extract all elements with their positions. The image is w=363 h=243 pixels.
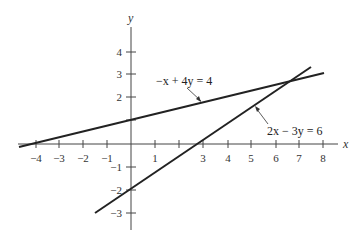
x-tick-label: 6	[273, 152, 279, 164]
y-tick-label: −1	[110, 161, 122, 173]
equation-label-1: −x + 4y = 4	[156, 74, 212, 88]
x-tick-label: −3	[53, 152, 65, 164]
x-tick-label: 8	[320, 152, 326, 164]
equation-label-2: 2x − 3y = 6	[267, 124, 323, 138]
y-tick-label: −3	[110, 207, 122, 219]
x-tick-label: −2	[77, 152, 89, 164]
x-tick-label: −4	[30, 152, 42, 164]
y-tick-label: 3	[117, 68, 123, 80]
x-axis-label: x	[342, 137, 349, 151]
x-tick-label: 5	[248, 152, 254, 164]
y-axis-label: y	[127, 11, 134, 25]
x-tick-label: 7	[296, 152, 302, 164]
x-tick-label: 1	[152, 152, 158, 164]
x-tick-label: 4	[225, 152, 231, 164]
y-tick-label: −2	[110, 184, 122, 196]
y-tick-label: 2	[117, 91, 123, 103]
line-2	[95, 67, 311, 213]
arrow-head-icon	[255, 106, 260, 112]
y-tick-label: 4	[117, 46, 123, 58]
x-tick-label: 3	[200, 152, 206, 164]
graph: −4 −3 −2 −1 1 3 4 5 6 7 8 4 3 2 −1 −2 −3…	[0, 0, 363, 243]
